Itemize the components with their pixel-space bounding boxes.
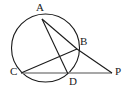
segment-a-b bbox=[42, 19, 77, 49]
geometry-canvas bbox=[0, 0, 129, 92]
point-label-a: A bbox=[36, 2, 44, 13]
segment-b-p bbox=[77, 49, 112, 73]
point-label-d: D bbox=[69, 76, 77, 87]
segment-a-d bbox=[42, 19, 68, 74]
circle-shape bbox=[12, 14, 80, 82]
point-label-c: C bbox=[10, 66, 17, 77]
point-label-b: B bbox=[80, 36, 87, 47]
point-label-p: P bbox=[115, 66, 121, 77]
segment-c-b bbox=[21, 49, 77, 73]
geometry-figure: A B C D P bbox=[0, 0, 129, 92]
